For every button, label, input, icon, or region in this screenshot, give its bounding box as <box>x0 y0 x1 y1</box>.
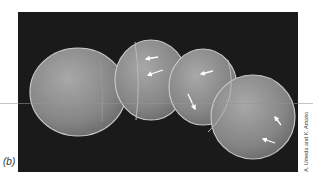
right-cell-pair <box>169 49 295 159</box>
left-cell-pair <box>30 40 187 136</box>
sem-micrograph <box>18 12 298 172</box>
bacteria-cells-illustration <box>18 12 298 172</box>
scan-artifact-line <box>0 103 313 104</box>
image-credit: A. Umeda and K. Amako <box>303 112 309 172</box>
panel-label: (b) <box>3 156 15 167</box>
